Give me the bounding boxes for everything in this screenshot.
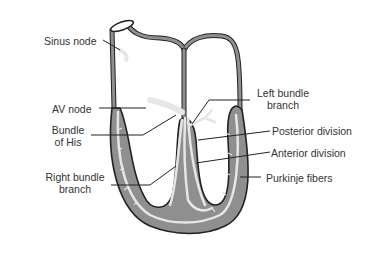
label-anterior-division: Anterior division [271,147,346,159]
label-av-node: AV node [52,103,92,115]
label-bundle-of-his-line1: Bundle [48,124,88,136]
label-left-bundle-line2: branch [252,99,314,111]
label-left-bundle-branch: Left bundle branch [252,87,314,111]
conduction-diagram: Sinus node AV node Bundle of His Right b… [0,0,378,254]
label-left-bundle-line1: Left bundle [252,87,314,99]
atria-outline [109,18,240,118]
label-bundle-of-his-line2: of His [48,136,88,148]
label-sinus-node: Sinus node [44,35,97,47]
label-purkinje-fibers: Purkinje fibers [266,172,333,184]
label-bundle-of-his: Bundle of His [48,124,88,148]
label-right-bundle-line1: Right bundle [42,171,108,183]
label-right-bundle-branch: Right bundle branch [42,171,108,195]
label-posterior-division: Posterior division [272,125,352,137]
ventricle-muscle [111,106,249,233]
label-right-bundle-line2: branch [42,183,108,195]
